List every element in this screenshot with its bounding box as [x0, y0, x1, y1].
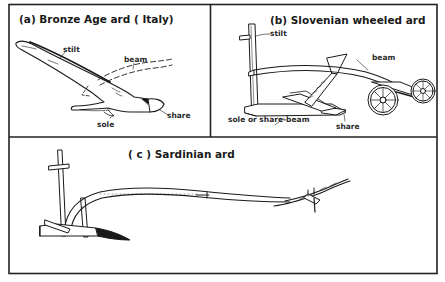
bronze-age-ard-illustration [16, 41, 172, 118]
panel-a-title: (a) Bronze Age ard ( Italy) [19, 13, 174, 25]
label-a-share: share [167, 111, 191, 120]
slovenian-wheeled-ard-illustration [240, 24, 435, 125]
label-b-sole: sole or share-beam [228, 115, 310, 124]
panel-c-title: ( c ) Sardinian ard [128, 148, 235, 160]
label-b-beam: beam [372, 53, 396, 62]
panel-b-title: (b) Slovenian wheeled ard [270, 14, 426, 26]
label-a-stilt: stilt [63, 45, 80, 54]
sardinian-ard-illustration [40, 150, 350, 240]
label-b-stilt: stilt [270, 29, 287, 38]
figure-frame: stilt beam share sole [0, 0, 445, 282]
label-a-sole: sole [97, 120, 114, 129]
figure-drawing: stilt beam share sole [0, 0, 445, 282]
label-a-beam: beam [124, 55, 148, 64]
label-b-share: share [336, 122, 360, 131]
